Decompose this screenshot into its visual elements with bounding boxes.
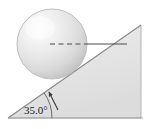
angle-label: 35.0°: [24, 104, 48, 116]
sphere-highlight: [25, 16, 55, 40]
physics-figure-container: 35.0°: [0, 0, 145, 129]
figure-canvas: 35.0°: [0, 0, 145, 129]
